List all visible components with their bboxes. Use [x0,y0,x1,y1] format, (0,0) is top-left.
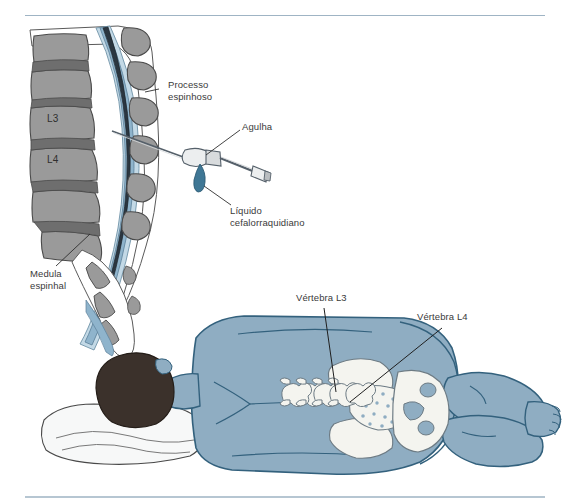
needle-luer-collar [206,150,221,166]
label-needle: Agulha [242,121,272,133]
label-spinal-cord: Medula espinhal [30,268,66,291]
spinous-process-l3 [130,136,158,164]
needle-extension-highlight [221,157,255,170]
label-vertebra-l4: Vértebra L4 [417,311,468,323]
vertebra-marker-l4: L4 [47,154,58,166]
label-csf: Líquido cefalorraquidiano [230,205,305,228]
leader-csf [204,186,231,205]
vertebral-body-l2 [31,70,92,101]
needle-distal-cap [264,171,271,181]
lumbar-puncture-figure: Processo espinhoso Agulha Líquido cefalo… [0,0,568,501]
vertebra-marker-l3: L3 [47,113,58,125]
label-spinous-process: Processo espinhoso [168,79,212,102]
patient-foot [525,402,561,437]
disc-l3-l4 [31,138,95,150]
spine-sagittal-panel [30,26,159,358]
obturator-foramen-lower [418,421,434,435]
vertebral-body-l5 [32,190,100,224]
csf-droplet [194,164,205,192]
leader-needle [206,130,240,155]
spinous-process-l5 [122,212,150,240]
obturator-foramen-upper [420,383,436,397]
sacral-lobe-2 [128,296,141,314]
label-vertebra-l3: Vértebra L3 [296,292,347,304]
patient-ear-highlight [156,359,172,374]
illustration-canvas [0,0,568,501]
vertebral-body-l4 [30,148,97,183]
spinous-process-t12 [121,28,150,56]
vertebra-chain-4 [346,383,376,407]
spinous-process-l4 [127,174,155,202]
vertebral-body-l3 [30,106,95,141]
needle-extension-tube [220,158,255,172]
vertebral-body-l1 [33,34,89,63]
